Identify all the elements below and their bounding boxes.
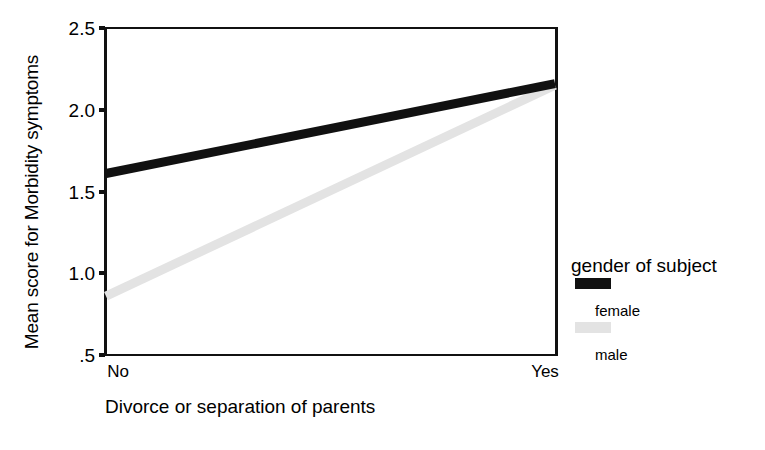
legend-label-female: female (595, 303, 640, 318)
series-line-male (106, 85, 555, 296)
legend-swatch-male (575, 322, 611, 333)
series-lines (104, 27, 558, 356)
series-line-female (106, 84, 555, 174)
y-tick-label: 1.0 (69, 264, 95, 283)
legend-swatch-female (575, 278, 611, 289)
plot-area: 2.52.01.51.0.5 NoYes (104, 27, 558, 356)
y-axis-title: Mean score for Morbidity symptoms (20, 37, 44, 367)
legend-title: gender of subject (571, 256, 717, 275)
x-tick-label: Yes (531, 363, 559, 380)
y-tick-label: 2.0 (69, 100, 95, 119)
y-tick-label: .5 (79, 346, 95, 365)
chart-figure: Mean score for Morbidity symptoms 2.52.0… (0, 0, 765, 450)
x-tick-label: No (107, 363, 129, 380)
legend-label-male: male (595, 347, 628, 362)
y-tick-label: 2.5 (69, 19, 95, 38)
y-tick-label: 1.5 (69, 182, 95, 201)
x-axis-title: Divorce or separation of parents (105, 396, 375, 419)
